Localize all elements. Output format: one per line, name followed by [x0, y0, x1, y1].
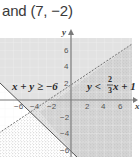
inequality-label-second-prefix: y < — [85, 80, 101, 92]
y-tick: 4 — [64, 62, 69, 71]
x-tick: −4 — [30, 102, 40, 111]
y-tick: 6 — [64, 46, 69, 55]
y-tick: −2 — [60, 113, 70, 122]
x-axis-label: x — [134, 101, 140, 111]
y-axis-label: y — [61, 27, 67, 37]
x-tick: 2 — [85, 102, 90, 111]
y-axis-arrow-icon — [68, 29, 74, 35]
inequality-label-second-suffix: x + 1 — [112, 80, 136, 92]
y-tick: 2 — [64, 79, 69, 88]
inequality-fraction-numerator: 2 — [108, 75, 112, 84]
x-tick: −2 — [47, 102, 57, 111]
y-tick: −4 — [60, 129, 70, 138]
x-tick: 6 — [118, 102, 123, 111]
inequality-fraction-denominator: 3 — [108, 86, 112, 95]
x-tick: −6 — [14, 102, 24, 111]
x-tick: 4 — [101, 102, 106, 111]
inequality-graph: y x −6 −4 −2 2 4 6 6 4 2 −2 −4 −6 x + y … — [0, 0, 140, 157]
inequality-label-first: x + y ≥ −6 — [11, 80, 58, 92]
y-tick: −6 — [60, 146, 70, 155]
